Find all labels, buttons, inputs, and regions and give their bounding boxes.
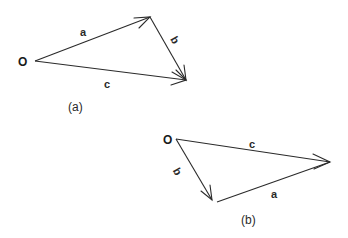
vector-label-b-b: b [171, 166, 185, 178]
vector-a-arrow-a [35, 17, 150, 61]
vector-label-a-a: a [80, 26, 87, 38]
vector-label-b-a: b [168, 34, 182, 46]
vector-c-arrow-a [35, 61, 186, 85]
diagram-a: O a b c (a) [18, 17, 186, 114]
vector-label-c-b: c [249, 138, 255, 150]
vector-label-a-b: a [271, 188, 278, 200]
diagram-b: O b a c (b) [163, 133, 330, 227]
vector-b-arrow-a [150, 17, 186, 80]
caption-b: (b) [241, 213, 256, 227]
vector-label-c-a: c [104, 78, 110, 90]
vector-triangle-diagrams: O a b c (a) O b a [0, 0, 348, 238]
caption-a: (a) [68, 100, 83, 114]
origin-label-a: O [18, 55, 27, 69]
origin-label-b: O [163, 133, 172, 147]
